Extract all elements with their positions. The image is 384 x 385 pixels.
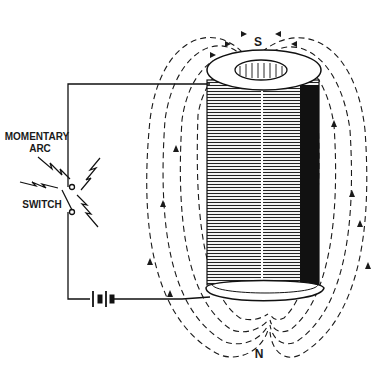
electromagnet-diagram: MOMENTARY ARC SWITCH S N: [0, 0, 384, 385]
switch-label: SWITCH: [22, 199, 61, 210]
coil: [206, 50, 324, 301]
circuit-wire: [68, 84, 210, 299]
arc-spark-icons: [20, 157, 100, 227]
arc-label-line1: MOMENTARY: [5, 131, 70, 142]
battery-icon: [93, 291, 114, 307]
arc-label-line2: ARC: [29, 143, 51, 154]
south-pole-label: S: [254, 35, 262, 49]
switch-icon: [62, 185, 75, 215]
north-pole-label: N: [255, 347, 264, 361]
